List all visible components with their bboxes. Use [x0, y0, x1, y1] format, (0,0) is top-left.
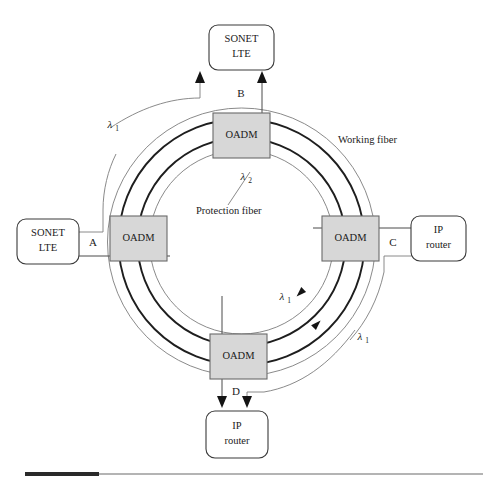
node-oadm-right[interactable]: OADM: [322, 216, 379, 261]
lambda-upper-left: λ 1: [107, 118, 120, 133]
oadm-top-label: OADM: [225, 129, 258, 140]
right-add-lead-line: [350, 256, 411, 340]
lambda-inner-top: λ 2: [240, 170, 253, 185]
node-right-terminal[interactable]: IP router: [411, 216, 466, 261]
node-bottom-terminal[interactable]: IP router: [206, 411, 268, 458]
ring-direction-arrow-inner: [294, 287, 306, 299]
point-label-a: A: [89, 236, 97, 248]
left-terminal-label-line2: LTE: [39, 242, 57, 253]
point-label-c: C: [389, 236, 396, 248]
point-label-b: B: [237, 87, 244, 99]
lambda-upper-left-subscript: 1: [115, 124, 119, 133]
ring-network-diagram: SONET LTE B OADM SONET LTE A OADM IP rou: [0, 0, 483, 484]
bottom-left-arrowhead-icon: [217, 396, 227, 408]
protection-fiber-leader-line: [228, 172, 250, 205]
ring-direction-arrow-outer: [311, 318, 323, 330]
node-oadm-top[interactable]: OADM: [213, 113, 270, 158]
point-label-d: D: [232, 385, 240, 397]
top-right-arrowhead-icon: [257, 71, 267, 83]
bottom-terminal-label-line1: IP: [232, 420, 241, 431]
lambda-inner-top-symbol: λ: [240, 170, 246, 182]
node-left-terminal[interactable]: SONET LTE: [17, 219, 79, 264]
top-terminal-label-line1: SONET: [225, 33, 259, 44]
node-top-terminal[interactable]: SONET LTE: [209, 25, 274, 70]
right-terminal-label-line1: IP: [434, 224, 443, 235]
lambda-inner-top-subscript: 2: [248, 176, 252, 185]
left-terminal-label-line1: SONET: [31, 227, 65, 238]
lambda-lower-outer-symbol: λ: [357, 330, 363, 342]
oadm-bottom-label: OADM: [222, 350, 255, 361]
top-left-arrowhead-icon: [195, 71, 205, 83]
oadm-left-label: OADM: [122, 232, 155, 243]
bottom-right-arrowhead-icon: [242, 396, 252, 408]
node-oadm-left[interactable]: OADM: [110, 216, 167, 261]
node-oadm-bottom[interactable]: OADM: [210, 334, 267, 379]
lambda-lower-inner-subscript: 1: [287, 296, 291, 305]
top-terminal-label-line2: LTE: [232, 48, 250, 59]
footer-rule-light-segment: [99, 473, 483, 475]
right-terminal-label-line2: router: [426, 239, 452, 250]
lambda-lower-outer: λ 1: [357, 330, 370, 345]
figure-container: SONET LTE B OADM SONET LTE A OADM IP rou: [0, 0, 483, 484]
lambda-upper-left-symbol: λ: [107, 118, 113, 130]
footer-rule-dark-segment: [25, 472, 99, 476]
oadm-right-label: OADM: [334, 232, 367, 243]
caption-working-fiber: Working fiber: [338, 134, 397, 145]
lambda-lower-inner: λ 1: [279, 290, 292, 305]
lambda-lower-outer-subscript: 1: [365, 336, 369, 345]
bottom-terminal-label-line2: router: [224, 435, 250, 446]
lambda-lower-inner-symbol: λ: [279, 290, 285, 302]
caption-protection-fiber: Protection fiber: [196, 205, 262, 216]
